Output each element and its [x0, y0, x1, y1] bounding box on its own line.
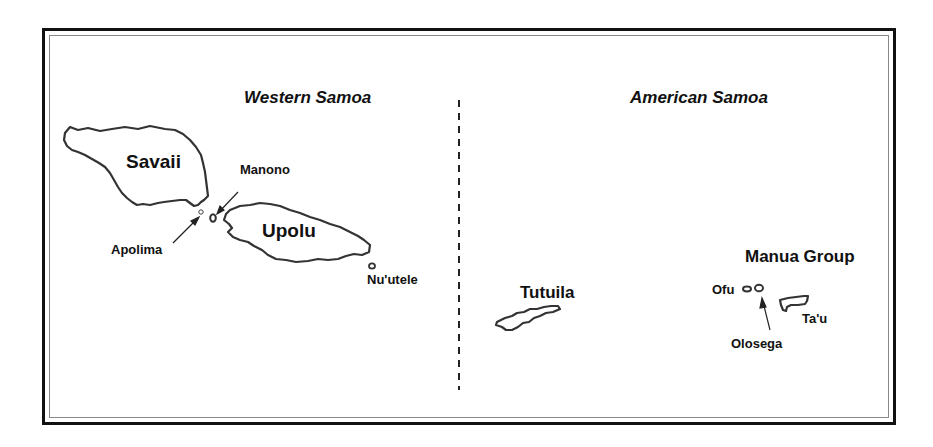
label-olosega: Olosega	[731, 337, 782, 350]
island-apolima	[199, 210, 203, 214]
arrow-head-olosega	[760, 298, 766, 308]
label-apolima: Apolima	[111, 243, 162, 256]
label-savaii: Savaii	[126, 152, 181, 171]
island-nuutele	[369, 263, 375, 268]
label-manono: Manono	[240, 163, 290, 176]
island-olosega	[755, 285, 763, 292]
island-tutuila	[496, 306, 560, 330]
label-ofu: Ofu	[712, 283, 734, 296]
label-upolu: Upolu	[262, 221, 316, 240]
map-canvas	[0, 0, 933, 447]
label-nuutele: Nu'utele	[367, 273, 418, 286]
arrow-apolima	[173, 220, 196, 243]
label-tau: Ta'u	[802, 312, 827, 325]
region-label-western-samoa: Western Samoa	[244, 89, 371, 106]
label-manua-group: Manua Group	[745, 248, 855, 265]
island-tau	[780, 296, 808, 311]
region-label-american-samoa: American Samoa	[630, 89, 768, 106]
label-tutuila: Tutuila	[520, 284, 574, 301]
island-manono	[210, 214, 216, 222]
island-ofu	[743, 287, 751, 292]
